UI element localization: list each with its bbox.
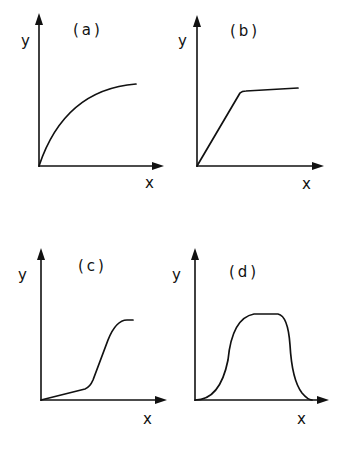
y-label: y <box>18 266 27 284</box>
x-axis-arrow-icon <box>317 396 329 404</box>
figure: y x (a) y x (b) y x (c) y x (d) <box>0 0 344 456</box>
x-axis-arrow-icon <box>152 162 164 170</box>
curve-c <box>41 320 133 400</box>
panel-title: (a) <box>73 21 103 39</box>
y-axis-arrow-icon <box>191 248 199 260</box>
curve-a <box>39 84 136 166</box>
y-label: y <box>21 32 30 50</box>
x-label: x <box>297 410 306 428</box>
y-label: y <box>178 32 187 50</box>
y-axis-arrow-icon <box>35 13 43 25</box>
panel-title: (c) <box>78 257 107 275</box>
x-label: x <box>145 174 154 192</box>
panel-title: (d) <box>229 263 259 281</box>
y-axis-arrow-icon <box>37 248 45 260</box>
panel-d: y x (d) <box>172 248 329 428</box>
panel-c: y x (c) <box>18 248 167 428</box>
y-axis-arrow-icon <box>193 15 201 27</box>
curve-b <box>197 88 298 166</box>
panel-a: y x (a) <box>21 13 164 192</box>
x-axis-arrow-icon <box>155 396 167 404</box>
y-label: y <box>172 266 181 284</box>
x-label: x <box>143 410 152 428</box>
curve-d <box>195 314 312 400</box>
x-label: x <box>302 175 311 193</box>
x-axis-arrow-icon <box>312 162 324 170</box>
panel-title: (b) <box>230 22 260 40</box>
panel-b: y x (b) <box>178 15 324 193</box>
